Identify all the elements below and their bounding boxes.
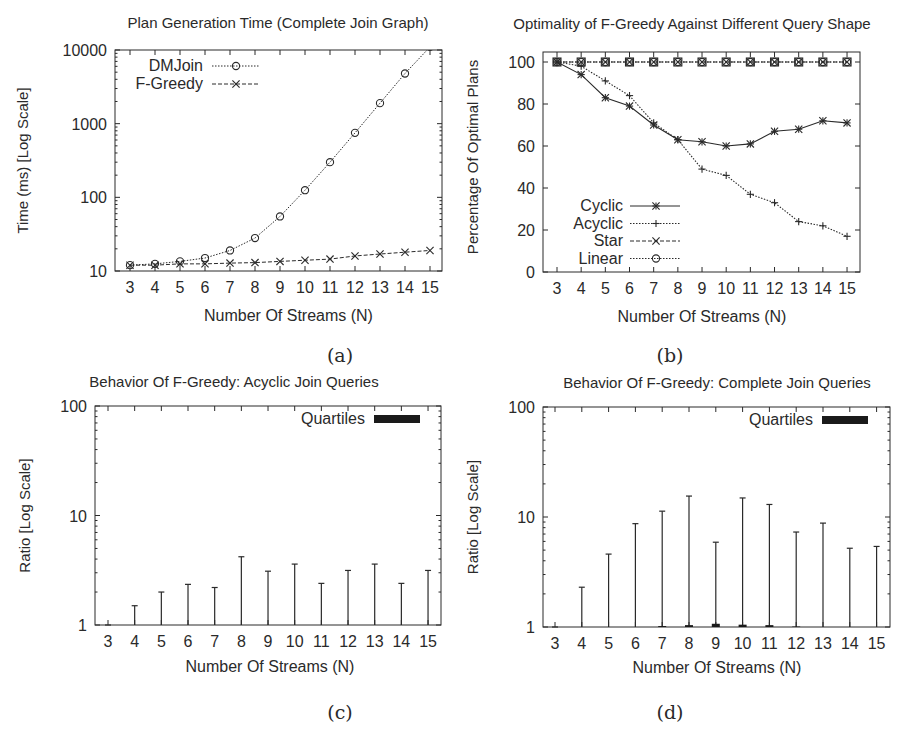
y-tick-label: 10 <box>89 263 107 280</box>
x-tick-label: 6 <box>184 633 193 650</box>
y-tick-label: 1 <box>526 619 535 636</box>
chart-a-plan-generation-time: Plan Generation Time (Complete Join Grap… <box>14 14 442 366</box>
y-tick-label: 1 <box>78 617 87 634</box>
x-tick-label: 12 <box>766 280 784 297</box>
legend-label: DMJoin <box>149 57 203 74</box>
x-tick-label: 15 <box>868 635 886 652</box>
x-tick-label: 9 <box>264 633 273 650</box>
figure-caption: (d) <box>657 701 684 723</box>
x-tick-label: 8 <box>685 635 694 652</box>
y-tick-label: 100 <box>508 54 535 71</box>
x-tick-label: 11 <box>322 279 339 296</box>
y-tick-label: 10000 <box>63 42 108 59</box>
x-tick-label: 13 <box>790 280 808 297</box>
whisker-bar <box>292 564 298 625</box>
y-tick-label: 10 <box>69 508 87 525</box>
series-f-greedy <box>126 247 433 269</box>
x-tick-label: 6 <box>201 279 210 296</box>
x-tick-label: 15 <box>421 279 439 296</box>
whisker-bar <box>238 557 244 625</box>
whisker-bar <box>345 570 351 625</box>
legend-label: Cyclic <box>580 197 623 214</box>
x-tick-label: 4 <box>577 635 586 652</box>
x-tick-label: 13 <box>371 279 389 296</box>
whisker-bar <box>685 496 693 627</box>
whisker-bar <box>632 524 638 627</box>
quartile-box <box>658 626 666 627</box>
x-tick-label: 10 <box>286 633 304 650</box>
y-tick-label: 20 <box>517 222 535 239</box>
chart-b-optimality: Optimality of F-Greedy Against Different… <box>464 15 871 366</box>
x-tick-label: 12 <box>787 635 805 652</box>
x-tick-label: 12 <box>339 633 357 650</box>
x-tick-label: 10 <box>717 280 735 297</box>
x-tick-label: 5 <box>176 279 185 296</box>
x-tick-label: 9 <box>711 635 720 652</box>
whisker-bar <box>658 511 666 627</box>
whisker-bar <box>425 570 431 625</box>
legend-label: Star <box>594 232 624 249</box>
chart-title: Plan Generation Time (Complete Join Grap… <box>128 14 429 31</box>
y-axis-label: Time (ms) [Log Scale] <box>14 87 31 233</box>
y-tick-label: 100 <box>508 399 535 416</box>
x-tick-label: 3 <box>104 633 113 650</box>
whisker-bar <box>265 571 271 625</box>
whisker-bar <box>874 546 880 627</box>
x-tick-label: 10 <box>296 279 314 296</box>
x-tick-label: 3 <box>551 635 560 652</box>
circle-marker-icon <box>426 43 433 50</box>
quartile-box <box>712 624 720 627</box>
x-axis-label: Number Of Streams (N) <box>186 658 355 675</box>
whisker-bar <box>318 583 324 625</box>
series-cyclic <box>553 58 850 149</box>
whisker-bar <box>372 564 378 625</box>
x-tick-label: 4 <box>151 279 160 296</box>
x-tick-label: 15 <box>838 280 856 297</box>
x-tick-label: 14 <box>396 279 414 296</box>
figure-canvas: Plan Generation Time (Complete Join Grap… <box>0 0 910 738</box>
y-axis-label: Percentage Of Optimal Plans <box>464 60 481 254</box>
x-tick-label: 14 <box>392 633 410 650</box>
whisker-bar <box>739 498 747 627</box>
whisker-bar <box>792 532 800 627</box>
whisker-bar <box>158 592 164 625</box>
legend-label: F-Greedy <box>135 75 203 92</box>
whisker-bar <box>820 523 826 627</box>
circle-marker-icon <box>226 247 233 254</box>
x-tick-label: 11 <box>742 280 759 297</box>
x-axis-label: Number Of Streams (N) <box>633 659 802 676</box>
y-tick-label: 10 <box>517 509 535 526</box>
chart-d-behavior-f-greedy: Behavior Of F-Greedy: Complete Join Quer… <box>464 374 890 723</box>
x-tick-label: 6 <box>631 635 640 652</box>
legend-label: Quartiles <box>749 411 813 428</box>
y-tick-label: 80 <box>517 96 535 113</box>
whisker-bar <box>606 554 612 627</box>
y-tick-label: 60 <box>517 138 535 155</box>
x-tick-label: 7 <box>658 635 667 652</box>
x-tick-label: 14 <box>814 280 832 297</box>
x-tick-label: 3 <box>126 279 135 296</box>
y-tick-label: 100 <box>60 398 87 415</box>
x-tick-label: 5 <box>604 635 613 652</box>
x-tick-label: 11 <box>313 633 330 650</box>
chart-title: Optimality of F-Greedy Against Different… <box>513 15 870 32</box>
x-tick-label: 8 <box>673 280 682 297</box>
x-tick-label: 8 <box>251 279 260 296</box>
x-tick-label: 7 <box>210 633 219 650</box>
chart-title: Behavior Of F-Greedy: Complete Join Quer… <box>563 374 871 391</box>
y-tick-label: 100 <box>80 189 107 206</box>
x-tick-label: 4 <box>577 280 586 297</box>
x-tick-label: 3 <box>553 280 562 297</box>
whisker-bar <box>712 542 720 627</box>
y-tick-label: 40 <box>517 180 535 197</box>
x-axis-label: Number Of Streams (N) <box>204 307 373 324</box>
x-tick-label: 13 <box>814 635 832 652</box>
x-tick-label: 8 <box>237 633 246 650</box>
x-tick-label: 5 <box>601 280 610 297</box>
x-tick-label: 10 <box>734 635 752 652</box>
whisker-bar <box>185 584 191 625</box>
circle-marker-icon <box>652 255 659 262</box>
whisker-bar <box>212 588 218 625</box>
x-tick-label: 15 <box>419 633 437 650</box>
circle-marker-icon <box>326 159 333 166</box>
